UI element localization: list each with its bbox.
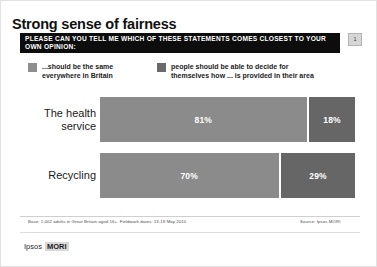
bar-segment-decide-locally-1: 29%	[281, 153, 355, 198]
category-label-1: Recycling	[12, 153, 96, 198]
slide-root: Strong sense of fairness PLEASE CAN YOU …	[0, 0, 377, 267]
bar-segment-same-everywhere-0: 81%	[100, 97, 307, 142]
footer-source-text: Source: Ipsos MORI	[300, 219, 341, 224]
ipsos-mori-logo: Ipsos MORI	[24, 242, 69, 251]
chart-row-recycling: Recycling 70% 29%	[12, 153, 364, 198]
legend-item-0: ...should be the same everywhere in Brit…	[28, 62, 113, 81]
legend-swatch-same-everywhere	[28, 63, 37, 72]
page-title: Strong sense of fairness	[12, 16, 176, 32]
question-text: PLEASE CAN YOU TELL ME WHICH OF THESE ST…	[25, 35, 335, 51]
bar-group-1: 70% 29%	[100, 153, 355, 198]
legend-swatch-decide-locally	[157, 63, 166, 72]
question-banner: PLEASE CAN YOU TELL ME WHICH OF THESE ST…	[20, 33, 340, 53]
footer-divider	[20, 232, 360, 233]
bar-segment-decide-locally-0: 18%	[309, 97, 355, 142]
logo-text: Ipsos	[24, 242, 42, 251]
bar-value-label-1-0: 18%	[323, 115, 341, 125]
footer-base-text: Base: 1,002 adults in Great Britain aged…	[28, 219, 186, 224]
chart-legend: ...should be the same everywhere in Brit…	[28, 62, 358, 86]
category-label-0: The health service	[12, 97, 96, 142]
footer-rule	[20, 216, 360, 217]
chart-row-health-service: The health service 81% 18%	[12, 97, 364, 142]
bar-group-0: 81% 18%	[100, 97, 355, 142]
logo-mark: MORI	[45, 242, 69, 251]
bar-value-label-0-0: 81%	[194, 115, 212, 125]
legend-label-1: people should be able to decide for them…	[171, 62, 314, 81]
bar-value-label-0-1: 70%	[180, 171, 198, 181]
legend-item-1: people should be able to decide for them…	[157, 62, 314, 81]
legend-label-0: ...should be the same everywhere in Brit…	[42, 62, 113, 81]
stacked-bar-chart: The health service 81% 18% Recycling 70%	[12, 97, 364, 207]
bar-value-label-1-1: 29%	[309, 171, 327, 181]
slide-number-badge: 1	[348, 33, 362, 46]
bar-segment-same-everywhere-1: 70%	[100, 153, 279, 198]
